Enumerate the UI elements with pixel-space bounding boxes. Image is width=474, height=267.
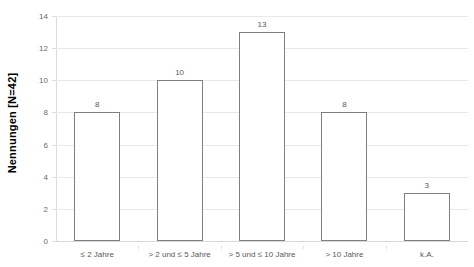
y-axis-title: Nennungen [N=42] [0,0,24,245]
y-axis-tick-label: 4 [44,172,48,181]
bar-value-label: 13 [258,20,267,29]
x-axis-tick-label: ≤ 2 Jahre [81,250,114,259]
x-axis-tick-label: > 10 Jahre [325,250,363,259]
y-axis-tick-label: 2 [44,204,48,213]
y-axis-tick-label: 6 [44,140,48,149]
y-axis-tick-mark [52,112,56,113]
x-axis-tick-label: > 2 und ≤ 5 Jahre [148,250,210,259]
x-axis-tick-labels: ≤ 2 Jahre> 2 und ≤ 5 Jahre> 5 und ≤ 10 J… [56,246,468,262]
bar-value-label: 8 [95,100,99,109]
bar-value-label: 8 [342,100,346,109]
y-axis-tick-mark [52,16,56,17]
y-axis-tick-label: 14 [39,12,48,21]
x-axis-tick-label: k.A. [420,250,434,259]
y-axis-tick-label: 10 [39,76,48,85]
y-axis-tick-labels: 02468101214 [24,16,52,241]
bar [157,80,203,241]
y-axis-tick-mark [52,80,56,81]
x-axis-separator [386,246,387,249]
plot-area: 8101383 [56,16,468,241]
x-axis-separator [138,246,139,249]
y-axis-tick-mark [52,177,56,178]
bar [239,32,285,241]
bar [404,193,450,241]
x-axis-separator [303,246,304,249]
bar-value-label: 10 [175,68,184,77]
gridline [56,241,468,242]
y-axis-tick-mark [52,241,56,242]
bar-chart: Nennungen [N=42] 02468101214 8101383 ≤ 2… [0,0,474,267]
bar [74,112,120,241]
x-axis-tick-label: > 5 und ≤ 10 Jahre [229,250,296,259]
gridline [56,16,468,17]
y-axis-tick-mark [52,48,56,49]
y-axis-tick-mark [52,209,56,210]
y-axis-tick-mark [52,145,56,146]
y-axis-title-text: Nennungen [N=42] [6,72,18,173]
y-axis-tick-label: 12 [39,44,48,53]
bar [321,112,367,241]
x-axis-separator [221,246,222,249]
bar-value-label: 3 [425,181,429,190]
y-axis-tick-label: 0 [44,237,48,246]
y-axis-tick-label: 8 [44,108,48,117]
